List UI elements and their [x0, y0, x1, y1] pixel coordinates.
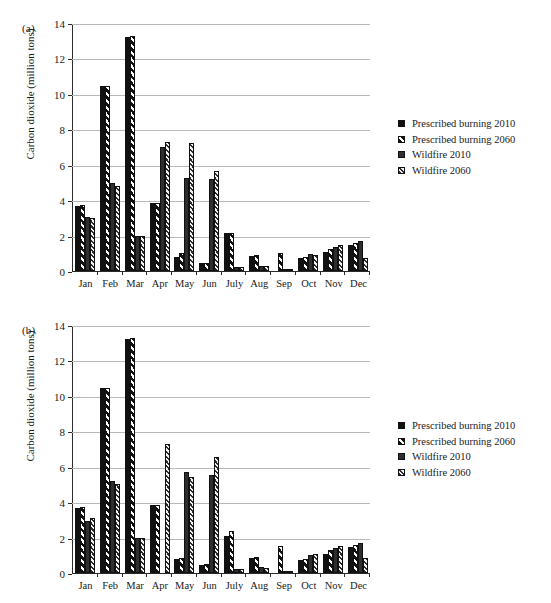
bar-group — [271, 326, 296, 573]
y-tick-mark — [68, 326, 72, 327]
y-tick-mark — [68, 237, 72, 238]
bar — [229, 531, 234, 574]
plot-area-b: 02468101214 — [72, 326, 370, 574]
bar — [155, 505, 160, 573]
legend-item: Prescribed burning 2010 — [398, 118, 515, 129]
legend-item: Wildfire 2060 — [398, 467, 515, 478]
legend-label: Prescribed burning 2060 — [412, 134, 515, 145]
x-tick-label: Mar — [123, 580, 148, 591]
x-axis-labels-a: JanFebMarAprMayJunJulyAugSepOctNovDec — [73, 278, 371, 289]
bar — [214, 171, 219, 271]
bar — [313, 554, 318, 573]
x-tick-label: July — [222, 580, 247, 591]
bar-group — [73, 326, 98, 573]
x-tick-label: July — [222, 278, 247, 289]
bar-group — [246, 24, 271, 271]
legend-swatch-solid-black — [398, 120, 405, 127]
y-axis-label-a: Carbon dioxide (million tons) — [24, 4, 36, 184]
y-tick-label: 14 — [54, 321, 65, 332]
y-tick-label: 12 — [54, 356, 65, 367]
y-tick-mark — [68, 59, 72, 60]
legend-swatch-coarse-hatch — [398, 438, 405, 445]
legend-label: Wildfire 2010 — [412, 149, 471, 160]
x-tick-label: Apr — [147, 278, 172, 289]
y-tick-label: 14 — [54, 19, 65, 30]
bar — [165, 142, 170, 271]
bar — [338, 245, 343, 271]
bar-group — [123, 24, 148, 271]
legend-label: Wildfire 2010 — [412, 451, 471, 462]
x-tick-label: Jun — [197, 580, 222, 591]
bar-group — [296, 24, 321, 271]
bar — [239, 569, 244, 573]
y-tick-label: 2 — [60, 231, 66, 242]
bar-group — [147, 24, 172, 271]
legend-item: Prescribed burning 2060 — [398, 436, 515, 447]
y-tick-label: 10 — [54, 89, 65, 100]
bar-group — [222, 24, 247, 271]
legend-item: Wildfire 2010 — [398, 149, 515, 160]
legend-item: Wildfire 2060 — [398, 165, 515, 176]
legend-label: Prescribed burning 2010 — [412, 118, 515, 129]
x-tick-label: May — [172, 278, 197, 289]
x-tick-label: Nov — [321, 278, 346, 289]
bar — [363, 558, 368, 573]
bar — [189, 477, 194, 573]
x-tick-label: May — [172, 580, 197, 591]
bar — [239, 267, 244, 271]
bar — [288, 269, 293, 271]
legend-swatch-coarse-hatch — [398, 136, 405, 143]
x-tick-label: Dec — [346, 580, 371, 591]
bar — [140, 538, 145, 573]
chart-panel-b: (b) Carbon dioxide (million tons) 024681… — [0, 302, 551, 603]
bar-groups-b — [73, 326, 370, 573]
bar-group — [321, 24, 346, 271]
bar — [278, 546, 283, 573]
legend-label: Wildfire 2060 — [412, 467, 471, 478]
x-tick-label: Sep — [272, 278, 297, 289]
bar — [313, 255, 318, 271]
x-tick-label: Apr — [147, 580, 172, 591]
bar-group — [197, 24, 222, 271]
y-tick-label: 4 — [60, 196, 66, 207]
y-tick-label: 8 — [60, 125, 66, 136]
bar-group — [98, 326, 123, 573]
x-tick-label: Feb — [98, 580, 123, 591]
legend-swatch-solid-dark — [398, 151, 405, 158]
bar-group — [172, 24, 197, 271]
bar-group — [197, 326, 222, 573]
legend-item: Prescribed burning 2060 — [398, 134, 515, 145]
x-tick-label: Jan — [73, 580, 98, 591]
bar-group — [123, 326, 148, 573]
bar — [264, 568, 269, 573]
x-tick-label: Dec — [346, 278, 371, 289]
x-tick-label: Mar — [123, 278, 148, 289]
legend-swatch-solid-dark — [398, 453, 405, 460]
x-tick-label: Feb — [98, 278, 123, 289]
y-tick-label: 4 — [60, 498, 66, 509]
legend-label: Prescribed burning 2060 — [412, 436, 515, 447]
bar-group — [345, 24, 370, 271]
y-axis-label-b: Carbon dioxide (million tons) — [24, 306, 36, 486]
legend-item: Wildfire 2010 — [398, 451, 515, 462]
bar-group — [271, 24, 296, 271]
x-tick-label: Jun — [197, 278, 222, 289]
y-tick-label: 8 — [60, 427, 66, 438]
legend-a: Prescribed burning 2010Prescribed burnin… — [398, 118, 515, 180]
y-tick-label: 10 — [54, 391, 65, 402]
y-tick-mark — [68, 130, 72, 131]
y-tick-mark — [68, 201, 72, 202]
y-tick-mark — [68, 272, 72, 273]
bar-group — [246, 326, 271, 573]
legend-label: Wildfire 2060 — [412, 165, 471, 176]
bar — [338, 546, 343, 573]
bar — [165, 444, 170, 573]
bar — [229, 233, 234, 271]
bar-group — [296, 326, 321, 573]
x-tick-label: Aug — [247, 278, 272, 289]
plot-area-a: 02468101214 — [72, 24, 370, 272]
y-tick-label: 0 — [60, 569, 66, 580]
legend-swatch-solid-black — [398, 422, 405, 429]
y-tick-label: 6 — [60, 462, 66, 473]
y-tick-mark — [68, 468, 72, 469]
